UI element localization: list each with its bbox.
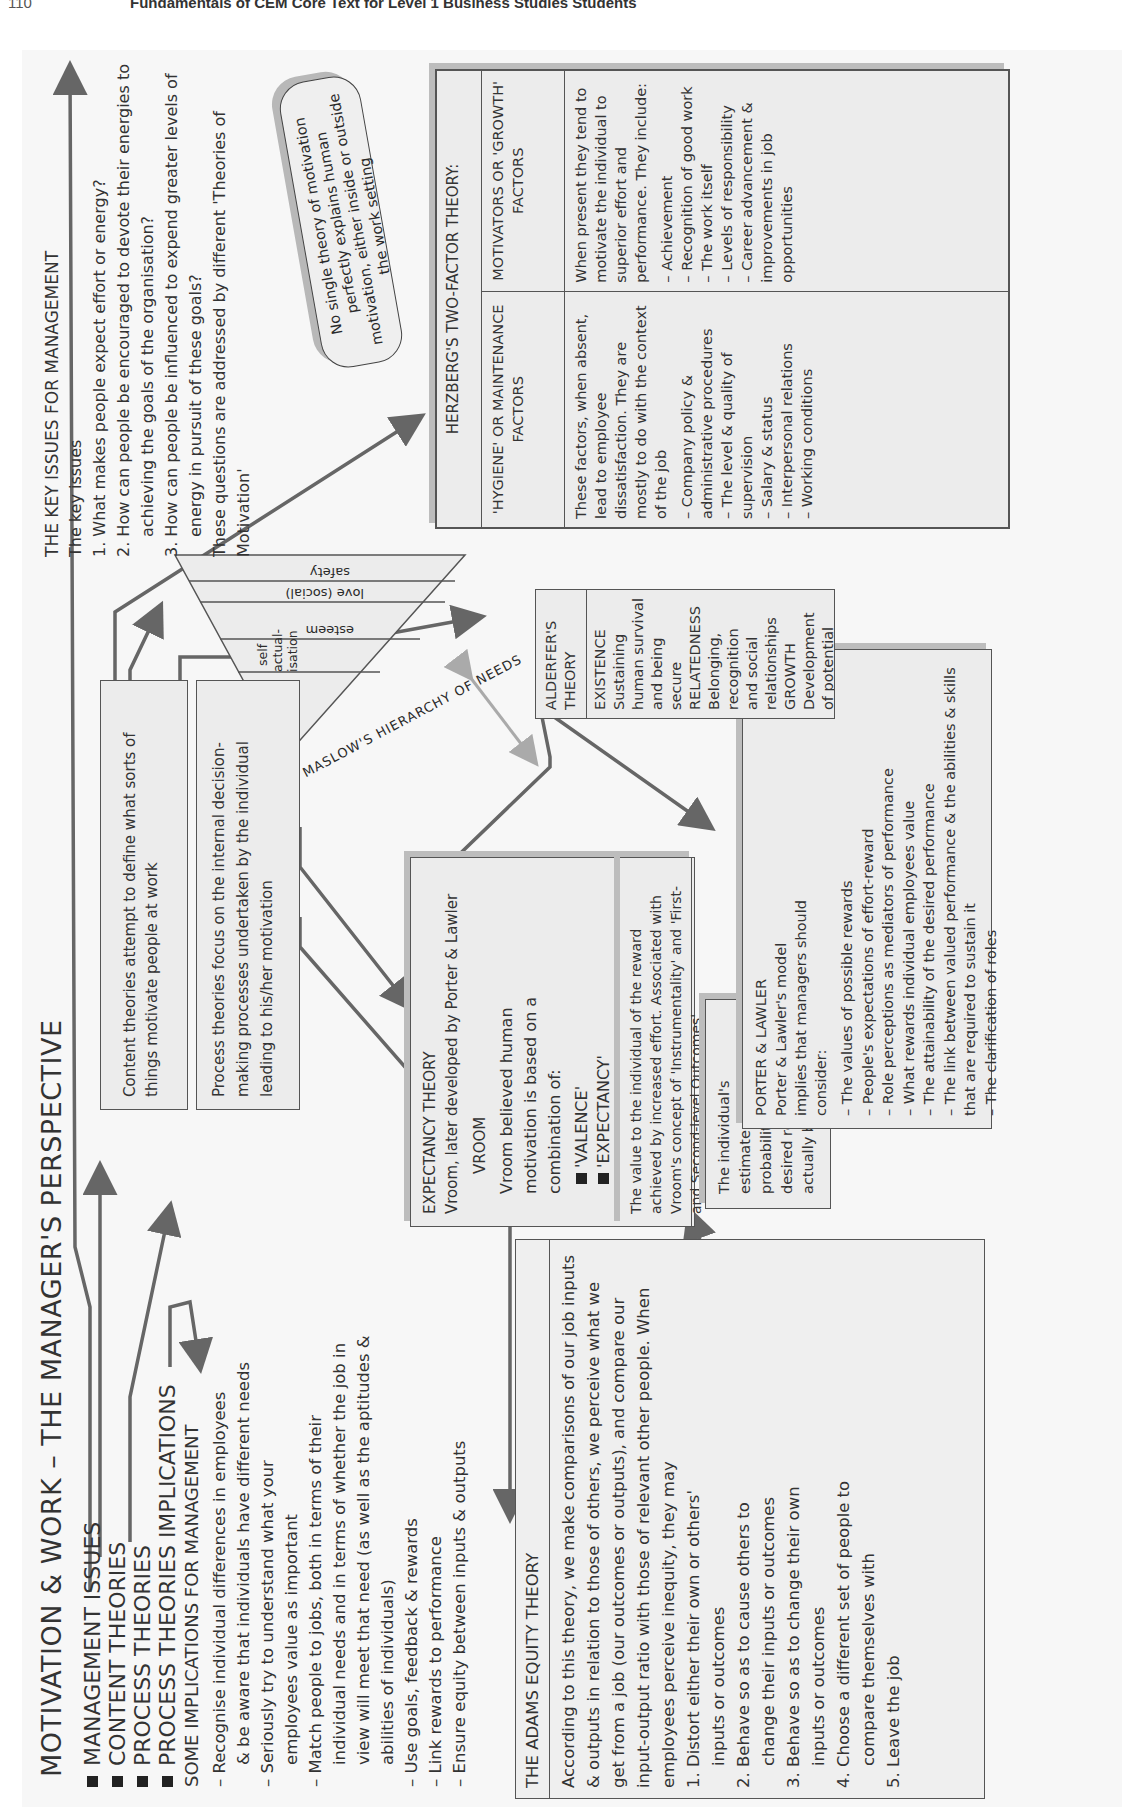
maslow-level-self-actualisation: self actual- isation [255, 638, 300, 672]
porter-item: – The link between valued performance & … [940, 662, 981, 1116]
bullet-square-icon [598, 1173, 609, 1184]
vroom-text: Vroom believed human motivation is based… [495, 934, 567, 1214]
adams-option: 3. Behave so as to change their owninput… [781, 1250, 831, 1788]
motivators-column: When present they tend to motivate the i… [565, 71, 1009, 292]
legend-process-theories: PROCESS THEORIES [130, 1384, 155, 1787]
key-issues-heading: THE KEY ISSUES FOR MANAGEMENT [40, 47, 64, 557]
key-issues-section: THE KEY ISSUES FOR MANAGEMENT The key is… [40, 47, 256, 557]
legend-content-theories: CONTENT THEORIES [105, 1384, 130, 1787]
content-theories-box: Content theories attempt to define what … [100, 680, 188, 1110]
porter-lawler-box: PORTER & LAWLER Porter & Lawler's model … [742, 649, 992, 1129]
adams-equity-box: THE ADAMS EQUITY THEORY According to thi… [515, 1239, 985, 1799]
porter-item: – People's expectations of effort-reward [858, 662, 879, 1116]
porter-lawler-list: – The values of possible rewards – Peopl… [837, 662, 1001, 1116]
implications-section: SOME IMPLICATIONS FOR MANAGEMENT – Recog… [180, 1317, 472, 1787]
expectancy-item: 'EXPECTANCY' [593, 870, 615, 1214]
implication-item: – Use goals, feedback & rewards [400, 1317, 424, 1787]
porter-item: – What rewards individual employees valu… [899, 662, 920, 1116]
implication-item: – Link rewards to performance [424, 1317, 448, 1787]
legend-process-implications: PROCESS THEORIES IMPLICATIONS [155, 1384, 180, 1787]
alderfer-body: EXISTENCESustaining human survivaland be… [587, 590, 835, 718]
herzberg-table: HERZBERG'S TWO-FACTOR THEORY: 'HYGIENE' … [436, 70, 1009, 528]
porter-item: – The values of possible rewards [837, 662, 858, 1116]
adams-intro: According to this theory, we make compar… [556, 1250, 681, 1788]
key-issue-item: 2. How can people be encouraged to devot… [112, 47, 160, 557]
maslow-level-safety: safety [300, 555, 360, 581]
diagram-title: MOTIVATION & WORK – THE MANAGER'S PERSPE… [36, 1019, 67, 1777]
bullet-square-icon [112, 1776, 123, 1787]
expectancy-subheading: Vroom, later developed by Porter & Lawle… [441, 870, 463, 1214]
adams-option: 5. Leave the job [881, 1250, 906, 1788]
implication-item: – Recognise individual differences in em… [208, 1317, 256, 1787]
implication-item: – Match people to jobs, both in terms of… [304, 1317, 400, 1787]
herzberg-box: HERZBERG'S TWO-FACTOR THEORY: 'HYGIENE' … [435, 69, 1010, 529]
vroom-label: VROOM [469, 870, 491, 1214]
arrow-content-to-maslow [130, 607, 160, 680]
maslow-level-love: love (social) [270, 581, 380, 602]
valence-description-box: The value to the individual of the rewar… [620, 857, 692, 1227]
adams-option: 4. Choose a different set of people toco… [831, 1250, 881, 1788]
key-issue-item: 3. How can people be influenced to expen… [160, 47, 208, 557]
implications-heading: SOME IMPLICATIONS FOR MANAGEMENT [180, 1317, 204, 1787]
adams-option: 2. Behave so as to cause others tochange… [731, 1250, 781, 1788]
bullet-square-icon [162, 1776, 173, 1787]
porter-item: – The attainability of the desired perfo… [919, 662, 940, 1116]
key-issue-item: 1. What makes people expect effort or en… [88, 47, 112, 557]
legend: MANAGEMENT ISSUES CONTENT THEORIES PROCE… [80, 1384, 180, 1787]
arrow-maslow-alderfer [470, 677, 535, 762]
arrow-process-to-expectancy [300, 827, 410, 1007]
adams-heading: THE ADAMS EQUITY THEORY [516, 1240, 550, 1798]
expectancy-heading: EXPECTANCY THEORY [419, 870, 441, 1214]
motivators-title: MOTIVATORS OR 'GROWTH' FACTORS [482, 71, 565, 292]
porter-lawler-heading: PORTER & LAWLER [751, 662, 771, 1116]
key-issues-closing: These questions are addressed by differe… [208, 47, 256, 557]
implication-item: – Ensure equity between inputs & outputs [448, 1317, 472, 1787]
legend-management-issues: MANAGEMENT ISSUES [80, 1384, 105, 1787]
hygiene-column: These factors, when absent, lead to empl… [565, 291, 1009, 527]
key-issues-subheading: The key issues [64, 47, 88, 557]
alderfer-box: ALDERFER'S THEORY EXISTENCESustaining hu… [535, 589, 835, 719]
adams-option: 1. Distort either their own or others'in… [681, 1250, 731, 1788]
process-theories-box: Process theories focus on the internal d… [196, 680, 300, 1110]
porter-lawler-intro: Porter & Lawler's model implies that man… [771, 896, 831, 1116]
bullet-square-icon [576, 1173, 587, 1184]
adams-body: According to this theory, we make compar… [550, 1240, 912, 1798]
implication-item: – Seriously try to understand what youre… [256, 1317, 304, 1787]
porter-item: – Role perceptions as mediators of perfo… [878, 662, 899, 1116]
hygiene-title: 'HYGIENE' OR MAINTENANCE FACTORS [482, 291, 565, 527]
porter-item: – The clarification of roles [981, 662, 1002, 1116]
rotated-diagram: MOTIVATION & WORK – THE MANAGER'S PERSPE… [0, 0, 1131, 1807]
alderfer-heading: ALDERFER'S THEORY [536, 590, 587, 718]
herzberg-heading: HERZBERG'S TWO-FACTOR THEORY: [437, 71, 482, 528]
valence-item: 'VALENCE' [571, 870, 593, 1214]
bullet-square-icon [137, 1776, 148, 1787]
maslow-level-esteem: esteem [300, 602, 360, 639]
bullet-square-icon [87, 1776, 98, 1787]
